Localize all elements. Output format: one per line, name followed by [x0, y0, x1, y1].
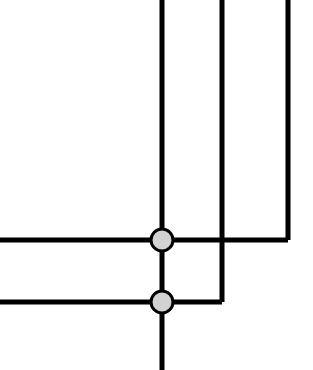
line-junction-diagram — [0, 0, 313, 370]
upper-junction-node[interactable] — [151, 229, 173, 251]
diagram-canvas — [0, 0, 313, 370]
lower-junction-node[interactable] — [151, 291, 173, 313]
diagram-background — [0, 0, 313, 370]
